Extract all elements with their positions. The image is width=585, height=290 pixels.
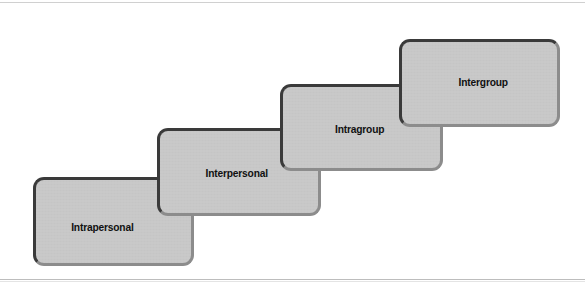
step-label-intragroup: Intragroup	[335, 123, 384, 135]
staircase-diagram: Intrapersonal Interpersonal Intragroup I…	[0, 0, 585, 290]
bottom-divider-rule	[0, 279, 585, 280]
bottom-divider-rule-shadow	[0, 281, 585, 282]
step-label-intergroup: Intergroup	[459, 76, 508, 88]
step-label-interpersonal: Interpersonal	[206, 167, 268, 179]
step-label-intrapersonal: Intrapersonal	[71, 221, 133, 233]
top-divider-rule	[0, 2, 585, 3]
step-box-intergroup: Intergroup	[399, 39, 560, 127]
